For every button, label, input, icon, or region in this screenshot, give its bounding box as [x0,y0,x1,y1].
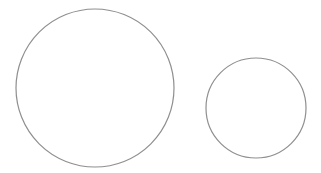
background [0,0,321,173]
diagram-canvas [0,0,321,173]
